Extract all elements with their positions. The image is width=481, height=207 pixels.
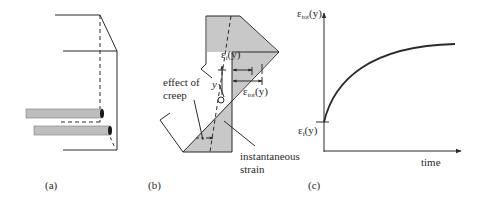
creep-bracket-lower bbox=[160, 113, 183, 152]
x-axis-label: time bbox=[421, 156, 441, 168]
creep-pointer-line bbox=[194, 100, 203, 140]
initial-strain-label: εi(y) bbox=[298, 124, 318, 138]
eps-i-label: εi(y) bbox=[221, 48, 241, 62]
creep-bracket-upper bbox=[201, 64, 212, 78]
y-axis-label: εtot(y) bbox=[297, 7, 322, 21]
panel-c bbox=[316, 13, 461, 152]
instantaneous-strain-label-2: strain bbox=[240, 163, 265, 175]
effect-of-creep-label-2: creep bbox=[163, 89, 187, 101]
effect-of-creep-label-1: effect of bbox=[163, 76, 200, 88]
centroid-circle bbox=[218, 97, 224, 103]
panel-a bbox=[26, 15, 117, 150]
rod-upper bbox=[26, 109, 102, 118]
beam-slant-edge bbox=[100, 15, 117, 51]
total-strain-curve bbox=[324, 44, 455, 122]
rod-upper-end bbox=[100, 109, 104, 118]
instantaneous-strain-label-1: instantaneous bbox=[240, 150, 300, 162]
panel-a-label: (a) bbox=[45, 179, 58, 192]
panel-b-label: (b) bbox=[148, 179, 161, 192]
rod-lower-end bbox=[108, 126, 112, 135]
creep-diagram: (a) εi bbox=[0, 0, 481, 207]
panel-c-label: (c) bbox=[308, 179, 321, 192]
y-label: y bbox=[211, 78, 217, 90]
rod-lower bbox=[34, 126, 110, 135]
eps-tot-label: εtot(y) bbox=[243, 85, 268, 99]
